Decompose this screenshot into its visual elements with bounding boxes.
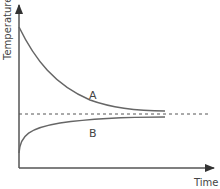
chart-canvas: A B Time Temperature: [0, 0, 220, 189]
curve-b-label: B: [89, 127, 97, 140]
y-axis-label: Temperature: [2, 0, 13, 61]
x-axis-label: Time: [193, 177, 218, 188]
curve-a-label: A: [89, 89, 97, 102]
